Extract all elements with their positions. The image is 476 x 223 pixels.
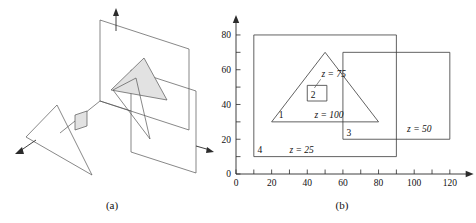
y-tick-label: 80 bbox=[222, 30, 232, 40]
axis-arrow-right bbox=[196, 146, 214, 153]
shape-depth-label-4: z = 25 bbox=[288, 145, 314, 155]
caption-b: (b) bbox=[322, 199, 362, 211]
y-tick-label: 0 bbox=[226, 169, 231, 179]
x-axis-arrowhead bbox=[466, 171, 474, 177]
panel-b-2d-plot: 0204060801001200204060804z = 253z = 501z… bbox=[222, 15, 474, 188]
axis-arrow-up bbox=[113, 8, 119, 31]
figure-root: 0204060801001200204060804z = 253z = 501z… bbox=[0, 0, 476, 223]
axis-arrow-left bbox=[15, 140, 36, 154]
shape-depth-label-2: z = 75 bbox=[321, 69, 347, 79]
x-tick-label: 100 bbox=[407, 178, 422, 188]
shape-id-label-2: 2 bbox=[311, 90, 316, 100]
y-tick-label: 40 bbox=[222, 100, 232, 110]
x-tick-label: 60 bbox=[338, 178, 348, 188]
x-tick-label: 80 bbox=[374, 178, 384, 188]
small-square-polygon bbox=[75, 111, 87, 130]
shape-id-label-4: 4 bbox=[257, 145, 262, 155]
y-axis-arrowhead bbox=[233, 15, 239, 23]
y-tick-label: 20 bbox=[222, 135, 232, 145]
shape-depth-label-3: z = 50 bbox=[406, 124, 432, 134]
shape-id-label-3: 3 bbox=[346, 128, 351, 138]
x-tick-label: 40 bbox=[303, 178, 313, 188]
panel-a-3d-view bbox=[15, 8, 214, 175]
y-tick-label: 60 bbox=[222, 65, 232, 75]
leader-line-z75 bbox=[314, 79, 320, 88]
plane-connector-edge bbox=[100, 101, 131, 111]
shape-id-label-1: 1 bbox=[279, 110, 284, 120]
caption-a: (a) bbox=[92, 199, 132, 211]
shape-polygon-4 bbox=[254, 35, 397, 157]
x-tick-label: 120 bbox=[443, 178, 458, 188]
shape-depth-label-1: z = 100 bbox=[313, 110, 343, 120]
x-tick-label: 0 bbox=[234, 178, 239, 188]
x-tick-label: 20 bbox=[267, 178, 277, 188]
